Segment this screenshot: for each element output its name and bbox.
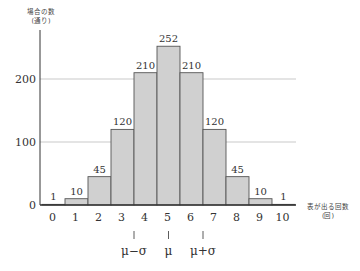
x-tick-7: 7 — [210, 211, 217, 224]
bar-9 — [249, 199, 272, 205]
bars — [42, 46, 295, 205]
x-tick-10: 10 — [276, 211, 290, 224]
x-tick-5: 5 — [164, 211, 171, 224]
bar-8 — [226, 177, 249, 205]
x-tick-4: 4 — [141, 211, 148, 224]
x-tick-6: 6 — [187, 211, 194, 224]
value-label-3: 120 — [113, 116, 132, 127]
annotation-label: μ−σ — [121, 244, 147, 258]
x-tick-3: 3 — [118, 211, 125, 224]
x-tick-labels: 012345678910 — [49, 211, 290, 224]
value-label-0: 1 — [50, 191, 56, 202]
annotation-label: μ+σ — [190, 244, 216, 258]
bar-6 — [180, 73, 203, 205]
value-label-10: 1 — [280, 191, 286, 202]
value-label-8: 45 — [231, 164, 244, 175]
x-tick-2: 2 — [95, 211, 102, 224]
y-tick-0: 0 — [29, 199, 36, 212]
value-label-2: 45 — [93, 164, 106, 175]
mu-sigma-annotations: μ−σμμ+σ — [121, 231, 216, 258]
annotation-label: μ — [165, 244, 173, 258]
x-tick-1: 1 — [72, 211, 79, 224]
value-label-1: 10 — [70, 186, 83, 197]
y-tick-labels: 0100200 — [15, 73, 36, 212]
x-tick-0: 0 — [49, 211, 56, 224]
bar-2 — [88, 177, 111, 205]
y-tick-200: 200 — [15, 73, 36, 86]
value-label-5: 252 — [159, 33, 178, 44]
value-label-6: 210 — [182, 60, 201, 71]
bar-4 — [134, 73, 157, 205]
value-label-7: 120 — [205, 116, 224, 127]
x-tick-8: 8 — [233, 211, 240, 224]
bar-5 — [157, 46, 180, 205]
bar-chart: 0100200 012345678910 1104512021025221012… — [0, 0, 360, 271]
bar-1 — [65, 199, 88, 205]
value-label-9: 10 — [254, 186, 267, 197]
bar-3 — [111, 129, 134, 205]
value-label-4: 210 — [136, 60, 155, 71]
x-tick-9: 9 — [256, 211, 263, 224]
y-tick-100: 100 — [15, 136, 36, 149]
bar-7 — [203, 129, 226, 205]
